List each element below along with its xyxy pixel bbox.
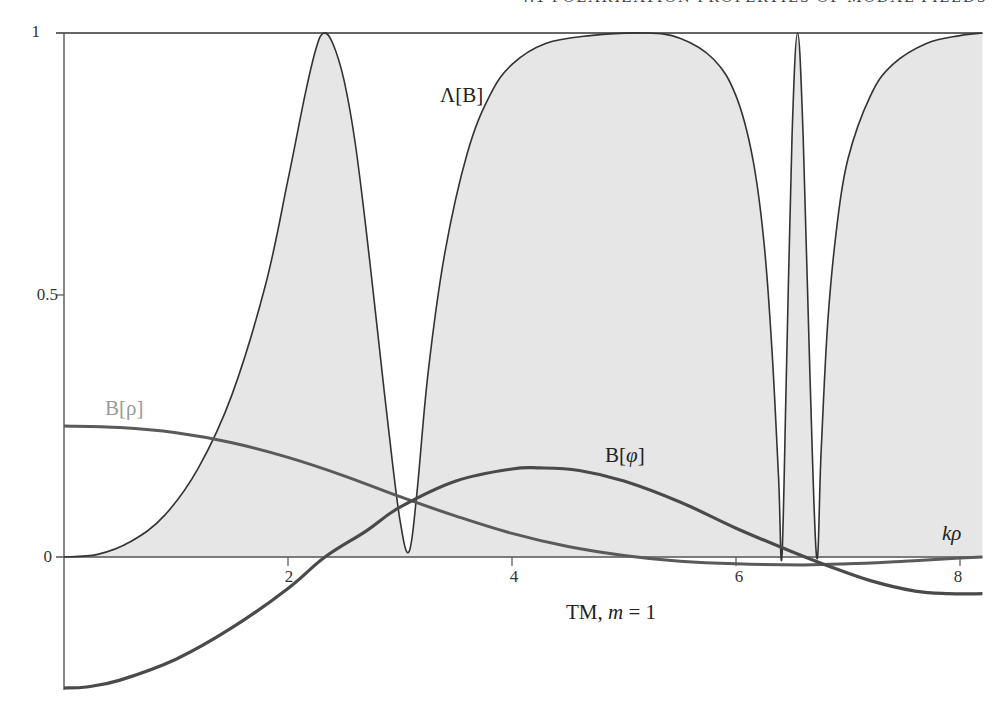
lambda-area-fill xyxy=(64,33,982,561)
x-tick-label-2: 2 xyxy=(274,567,304,587)
b-phi-symbol: φ xyxy=(626,443,638,467)
caption-prefix: TM, xyxy=(566,600,608,624)
y-tick-label-1: 1 xyxy=(0,22,40,42)
b-rho-series-label: B[ρ] xyxy=(105,396,143,421)
y-tick-label-0: 0 xyxy=(12,547,52,567)
x-axis-label-k: k xyxy=(942,521,951,545)
b-phi-series-label: B[φ] xyxy=(605,443,645,468)
b-phi-prefix: B[ xyxy=(605,443,626,467)
chart-caption: TM, m = 1 xyxy=(566,600,656,625)
x-axis-label: kρ xyxy=(942,521,961,546)
b-phi-suffix: ] xyxy=(638,443,645,467)
x-axis-label-rho: ρ xyxy=(951,521,961,545)
x-tick-label-6: 6 xyxy=(724,567,754,587)
chart-canvas xyxy=(0,0,1006,717)
y-tick-label-0.5: 0.5 xyxy=(18,285,58,305)
x-tick-label-8: 8 xyxy=(943,567,973,587)
caption-suffix: = 1 xyxy=(623,600,656,624)
lambda-series-label: Λ[B] xyxy=(440,83,483,108)
x-tick-label-4: 4 xyxy=(499,567,529,587)
caption-m: m xyxy=(608,600,623,624)
